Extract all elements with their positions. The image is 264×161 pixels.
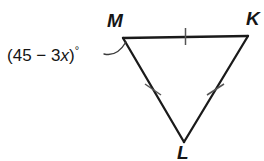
angle-variable: x [60, 46, 69, 65]
degree-symbol: ° [75, 44, 79, 56]
tick-mark-side-lm [145, 84, 161, 95]
vertex-label-m: M [107, 11, 123, 30]
vertex-label-l: L [177, 143, 189, 161]
triangle-diagram [0, 0, 264, 161]
tick-mark-side-kl [207, 84, 224, 95]
vertex-label-k: K [246, 9, 260, 28]
triangle-outline [123, 36, 248, 142]
angle-expression-label: (45 − 3x)° [7, 40, 79, 66]
angle-operator: − [36, 46, 46, 65]
geometry-figure: (45 − 3x)° M K L [0, 0, 264, 161]
angle-leader-line [104, 42, 126, 55]
angle-constant: 45 [13, 46, 32, 65]
